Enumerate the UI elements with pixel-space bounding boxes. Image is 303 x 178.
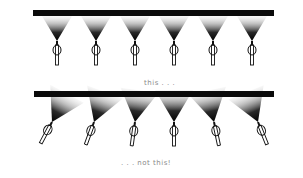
spray-nozzle xyxy=(120,16,150,65)
spray-cone xyxy=(159,16,189,41)
nozzle-alignment-diagram: this . . . . . . not this! xyxy=(0,0,303,178)
diagram-canvas xyxy=(0,0,303,178)
spray-nozzle xyxy=(198,16,228,65)
spray-nozzle xyxy=(155,90,193,146)
spray-nozzle xyxy=(237,16,267,65)
spray-nozzle xyxy=(42,16,72,65)
spray-nozzle xyxy=(159,16,189,65)
panel-correct xyxy=(33,10,274,65)
spray-cone xyxy=(42,16,72,41)
spray-cone xyxy=(237,16,267,41)
spray-cone xyxy=(81,16,111,41)
panel-incorrect xyxy=(24,85,285,152)
pipe-header xyxy=(33,10,274,16)
caption-incorrect: . . . not this! xyxy=(121,159,171,167)
caption-correct: this . . . xyxy=(144,79,175,87)
spray-cone xyxy=(120,16,150,41)
spray-nozzle xyxy=(81,16,111,65)
pipe-header xyxy=(34,91,274,97)
spray-cone xyxy=(198,16,228,41)
